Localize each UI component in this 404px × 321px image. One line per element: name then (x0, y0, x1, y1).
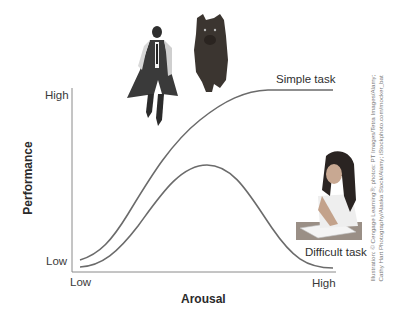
y-axis-low-label: Low (46, 255, 67, 267)
y-axis-title: Performance (21, 141, 35, 214)
x-axis-low-label: Low (70, 276, 91, 288)
photo-credit-line-2: Cathy Hart Photography/Alaska Stock/Alam… (377, 75, 385, 282)
chart-canvas (0, 0, 404, 321)
difficult-task-label: Difficult task (305, 246, 367, 258)
simple-task-label: Simple task (276, 73, 335, 85)
difficult-task-curve (80, 165, 333, 268)
photo-credit-line-1: Illustration: © Cengage Learning®; photo… (369, 75, 377, 282)
running-man-photo (127, 26, 178, 126)
x-axis-title: Arousal (181, 292, 226, 306)
studying-girl-photo (296, 151, 362, 240)
y-axis-high-label: High (45, 89, 69, 101)
x-axis-high-label: High (312, 277, 336, 289)
simple-task-curve (80, 90, 333, 260)
photo-credit: Illustration: © Cengage Learning®; photo… (369, 75, 384, 282)
charging-bear-photo (194, 14, 228, 92)
